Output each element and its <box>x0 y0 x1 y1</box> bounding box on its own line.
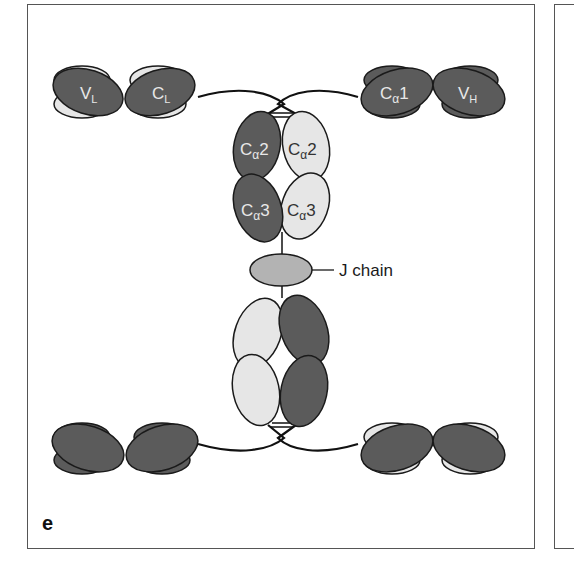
lower-ca2-right-domain <box>274 351 334 431</box>
fc-lower <box>224 288 338 431</box>
j-chain <box>250 254 312 286</box>
fab-top-left <box>47 60 201 124</box>
panel-letter: e <box>42 512 53 535</box>
top-hinge-chains <box>198 91 358 117</box>
lower-ca2-left-domain <box>226 350 286 430</box>
ca2-left-domain <box>227 107 287 185</box>
fab-bottom-right <box>355 416 511 481</box>
bottom-hinge-chains <box>198 423 358 451</box>
fc-upper <box>224 107 338 249</box>
fab-top-right <box>355 60 511 125</box>
j-chain-label: J chain <box>339 261 393 280</box>
fab-bottom-left <box>46 416 204 481</box>
